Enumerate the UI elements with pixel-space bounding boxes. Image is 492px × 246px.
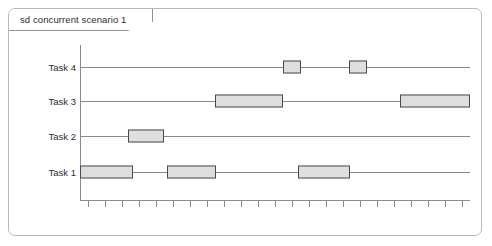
x-axis-tick [156,200,157,207]
x-axis-tick [292,200,293,207]
lane-label-task-3: Task 3 [49,96,76,107]
x-axis-tick [462,200,463,207]
activation-bar[interactable] [349,61,367,74]
lane-lifeline [80,172,470,173]
plot-area: Task 4Task 3Task 2Task 1 [0,0,492,246]
activation-bar[interactable] [283,61,301,74]
x-axis-tick [275,200,276,207]
x-axis-tick [88,200,89,207]
lane-label-task-1: Task 1 [49,167,76,178]
activation-bar[interactable] [80,166,133,179]
x-axis-tick [224,200,225,207]
x-axis-tick [343,200,344,207]
x-axis-tick [122,200,123,207]
x-axis-tick [105,200,106,207]
x-axis-tick [309,200,310,207]
activation-bar[interactable] [400,95,470,108]
x-axis-tick [411,200,412,207]
activation-bar[interactable] [215,95,283,108]
x-axis-tick [394,200,395,207]
x-axis-tick [207,200,208,207]
x-axis-tick [173,200,174,207]
x-axis-tick [445,200,446,207]
x-axis-tick [326,200,327,207]
activation-bar[interactable] [167,166,216,179]
lane-label-task-4: Task 4 [49,62,76,73]
x-axis-tick [360,200,361,207]
lane-label-task-2: Task 2 [49,131,76,142]
lane-lifeline [80,67,470,68]
x-axis-tick [258,200,259,207]
x-axis-tick [377,200,378,207]
x-axis-tick [139,200,140,207]
x-axis-tick [241,200,242,207]
x-axis-tick [428,200,429,207]
timing-diagram-canvas: sd concurrent scenario 1 Task 4Task 3Tas… [0,0,492,246]
activation-bar[interactable] [128,130,164,143]
x-axis-tick [190,200,191,207]
activation-bar[interactable] [298,166,350,179]
